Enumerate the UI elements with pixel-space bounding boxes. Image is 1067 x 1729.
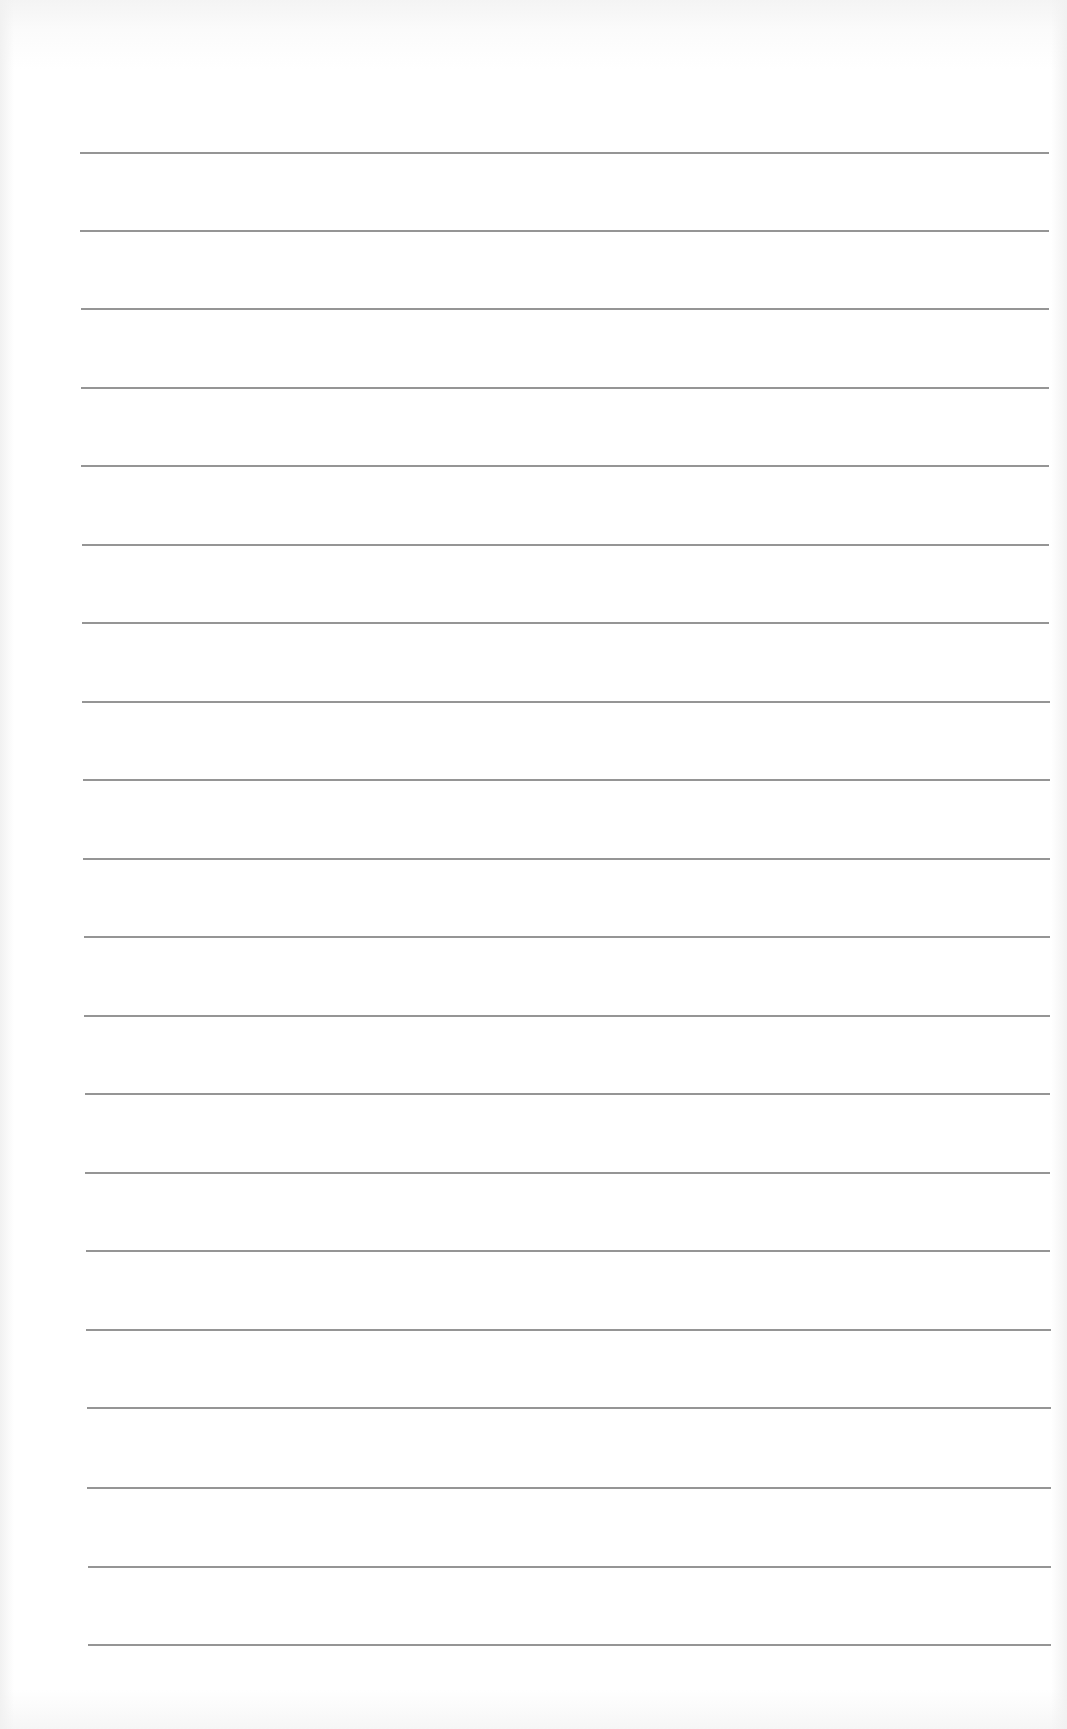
ruled-line bbox=[86, 1250, 1050, 1252]
ruled-line bbox=[83, 858, 1050, 860]
ruled-line bbox=[86, 1329, 1051, 1331]
ruled-line bbox=[87, 1487, 1051, 1489]
ruled-line bbox=[82, 544, 1049, 546]
ruled-line bbox=[81, 465, 1049, 467]
ruled-line bbox=[88, 1566, 1051, 1568]
ruled-line bbox=[81, 387, 1049, 389]
ruled-line bbox=[85, 1093, 1050, 1095]
ruled-line bbox=[80, 152, 1049, 154]
ruled-line bbox=[83, 779, 1050, 781]
ruled-line bbox=[82, 622, 1049, 624]
ruled-line bbox=[88, 1644, 1051, 1646]
lined-paper-page bbox=[0, 0, 1067, 1729]
ruled-line bbox=[80, 230, 1049, 232]
ruled-line bbox=[81, 308, 1049, 310]
ruled-line bbox=[84, 936, 1050, 938]
ruled-line bbox=[82, 701, 1050, 703]
ruled-line bbox=[87, 1407, 1051, 1409]
ruled-line bbox=[85, 1172, 1050, 1174]
ruled-line bbox=[84, 1015, 1050, 1017]
